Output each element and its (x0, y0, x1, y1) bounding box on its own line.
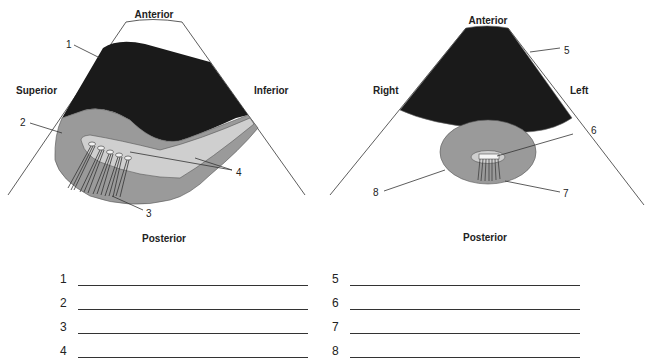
answer-blank-8[interactable] (350, 343, 580, 358)
answer-blank-6[interactable] (350, 295, 580, 310)
answer-number: 5 (332, 272, 348, 286)
left-label-posterior: Posterior (142, 233, 186, 244)
callout-1: 1 (66, 39, 72, 50)
answer-list-right: 5 6 7 8 (332, 262, 592, 358)
callout-3: 3 (146, 208, 152, 219)
callout-8: 8 (373, 187, 379, 198)
callout-6: 6 (591, 125, 597, 136)
answer-row-3: 3 (60, 310, 320, 334)
left-sagittal-diagram: Anterior Superior Inferior Posterior 1 2… (8, 9, 305, 244)
right-dark-region (400, 26, 572, 132)
answer-blank-7[interactable] (350, 319, 580, 334)
answer-number: 3 (60, 320, 76, 334)
answer-list-left: 1 2 3 4 (60, 262, 320, 358)
answer-number: 2 (60, 296, 76, 310)
answer-number: 1 (60, 272, 76, 286)
answer-row-1: 1 (60, 262, 320, 286)
callout-4: 4 (236, 167, 242, 178)
right-label-left: Left (570, 85, 589, 96)
left-label-superior: Superior (16, 85, 57, 96)
answer-row-5: 5 (332, 262, 592, 286)
answer-row-6: 6 (332, 286, 592, 310)
left-label-anterior: Anterior (135, 9, 174, 20)
callout-5: 5 (564, 45, 570, 56)
answer-blank-3[interactable] (78, 319, 308, 334)
answer-row-8: 8 (332, 334, 592, 358)
answer-number: 7 (332, 320, 348, 334)
callout-7: 7 (563, 188, 569, 199)
right-label-anterior: Anterior (469, 15, 508, 26)
answer-row-7: 7 (332, 310, 592, 334)
answer-number: 4 (60, 344, 76, 358)
right-opening (479, 154, 499, 159)
answer-blank-2[interactable] (78, 295, 308, 310)
right-label-right: Right (373, 85, 399, 96)
answer-row-4: 4 (60, 334, 320, 358)
answer-blank-5[interactable] (350, 271, 580, 286)
answer-row-2: 2 (60, 286, 320, 310)
answer-number: 6 (332, 296, 348, 310)
answer-blank-4[interactable] (78, 343, 308, 358)
answer-number: 8 (332, 344, 348, 358)
right-label-posterior: Posterior (463, 232, 507, 243)
right-transverse-diagram: Anterior Right Left Posterior 5 6 7 8 (330, 15, 644, 243)
left-label-inferior: Inferior (254, 85, 289, 96)
answer-blank-1[interactable] (78, 271, 308, 286)
callout-2: 2 (20, 117, 26, 128)
